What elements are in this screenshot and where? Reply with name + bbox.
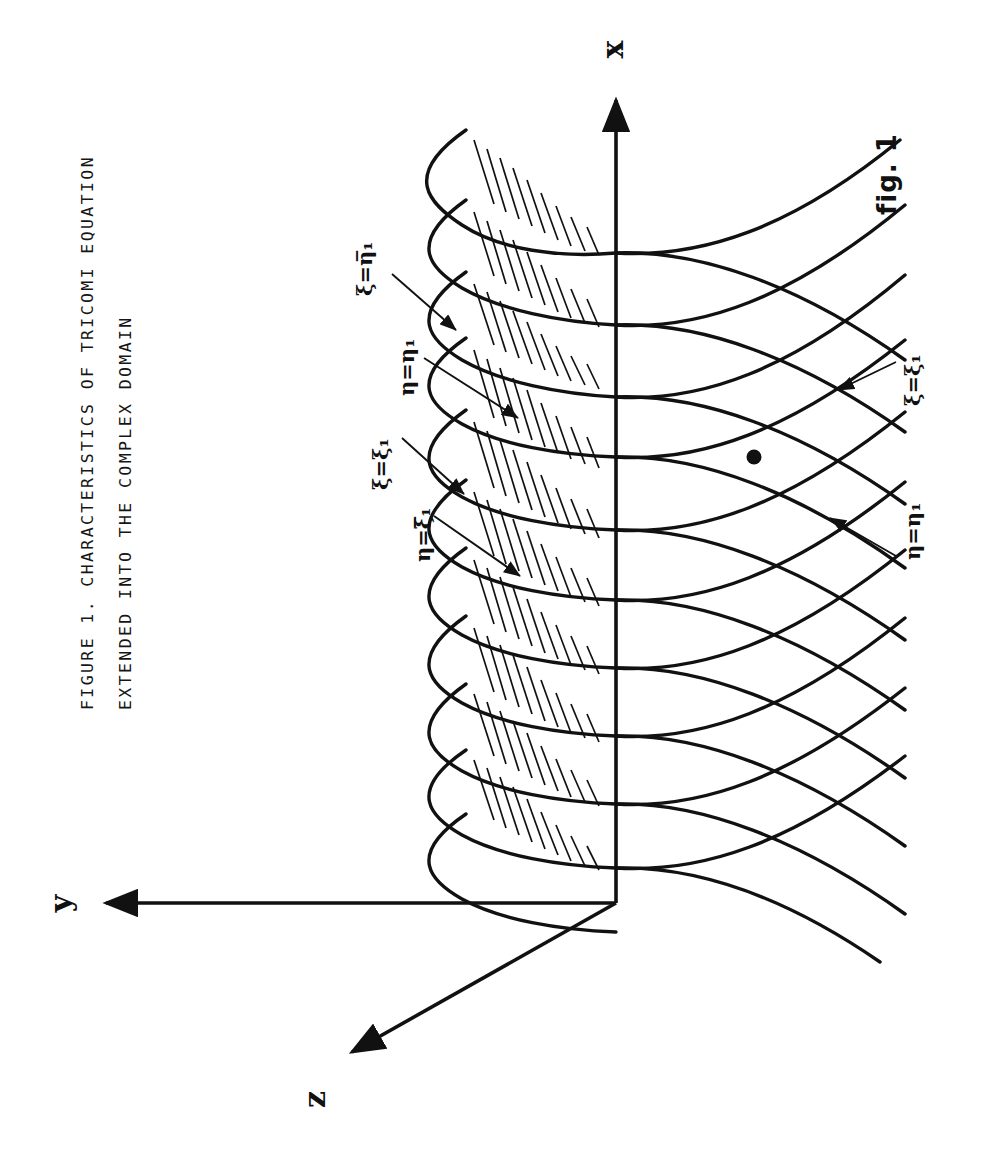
characteristic-family-xi (616, 140, 905, 869)
axis-label-z: z (297, 1091, 332, 1108)
figure-caption-line-1: FIGURE 1. CHARACTERISTICS OF TRICOMI EQU… (78, 155, 97, 710)
axis-label-y: y (43, 895, 78, 912)
annotation-xi-eta1-bar: ξ=η̅₁ (352, 242, 377, 297)
fig-number-label: fig. 1 (872, 133, 902, 215)
annotation-eta-xi1-bar: η=ξ̅₁ (410, 508, 435, 563)
marked-intersection-point (747, 450, 762, 465)
characteristic-family-eta (616, 253, 905, 962)
axis-label-x: x (595, 41, 630, 59)
figure-caption: FIGURE 1. CHARACTERISTICS OF TRICOMI EQU… (40, 40, 160, 740)
annotation-xi-xi1: ξ=ξ₁ (368, 438, 393, 490)
figure-canvas: FIGURE 1. CHARACTERISTICS OF TRICOMI EQU… (0, 0, 996, 1162)
axis-z (352, 903, 616, 1052)
annotation-xi-xi1-right: ξ=ξ₁ (900, 354, 925, 406)
figure-caption-line-2: EXTENDED INTO THE COMPLEX DOMAIN (116, 315, 135, 710)
annotation-eta-eta1-right: η=η₁ (900, 503, 925, 560)
annotation-eta-eta1: η=η₁ (394, 339, 419, 396)
